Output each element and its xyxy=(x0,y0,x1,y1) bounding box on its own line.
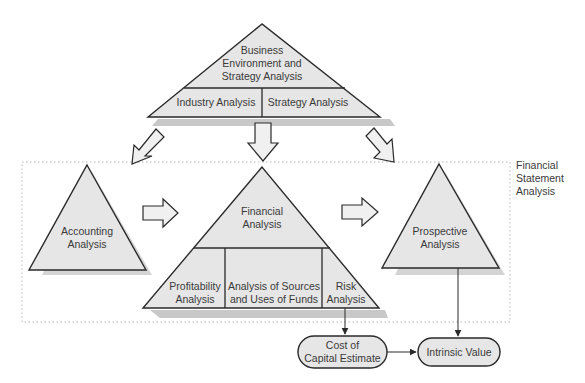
arrow-financial-to-prospective-icon xyxy=(342,198,378,226)
accounting-analysis-triangle xyxy=(29,165,152,275)
sources-uses-of-funds-label: Analysis of Sources and Uses of Funds xyxy=(226,280,322,306)
arrow-to-financial-icon xyxy=(248,123,278,161)
financial-statement-analysis-label: Financial Statement Analysis xyxy=(516,159,564,198)
arrow-to-accounting-icon xyxy=(132,129,164,164)
arrow-accounting-to-financial-icon xyxy=(143,199,178,227)
cost-of-capital-label: Cost of Capital Estimate xyxy=(298,339,387,365)
financial-analysis-title: Financial Analysis xyxy=(222,205,302,231)
accounting-analysis-label: Accounting Analysis xyxy=(47,225,127,251)
risk-analysis-label: Risk Analysis xyxy=(322,280,370,306)
arrow-to-prospective-icon xyxy=(366,128,394,162)
prospective-analysis-label: Prospective Analysis xyxy=(400,225,480,251)
industry-analysis-label: Industry Analysis xyxy=(172,96,260,109)
top-pyramid-title: Business Environment and Strategy Analys… xyxy=(212,44,312,83)
strategy-analysis-label: Strategy Analysis xyxy=(264,96,352,109)
profitability-analysis-label: Profitability Analysis xyxy=(164,280,226,306)
intrinsic-value-label: Intrinsic Value xyxy=(418,346,500,359)
prospective-analysis-triangle xyxy=(382,164,505,275)
